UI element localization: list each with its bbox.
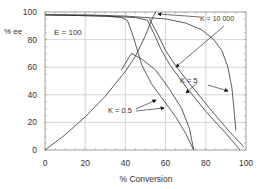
x-axis-label: % Conversion [120,174,173,184]
annotation-e100: E = 100 [54,28,82,37]
chart: 020406080100020406080100 % ee % Conversi… [0,0,263,189]
arrow-k05-b [136,108,164,111]
arrow-k10000-b [176,26,224,67]
x-tick-label: 0 [43,158,48,168]
x-tick-label: 80 [201,158,211,168]
arrow-k10000-a [158,14,200,17]
annotation-k10000: K = 10 000 [200,15,234,22]
arrow-k05-a [136,100,156,109]
y-tick-label: 80 [28,35,38,45]
x-tick-label: 100 [239,158,253,168]
y-tick-label: 60 [28,62,38,72]
y-axis-label: % ee [4,27,23,36]
chart-svg: 020406080100020406080100 % ee % Conversi… [0,0,263,189]
y-tick-label: 40 [28,90,38,100]
y-tick-label: 100 [23,7,37,17]
arrow-k5-b [208,85,228,91]
x-tick-label: 60 [161,158,171,168]
x-tick-label: 40 [121,158,131,168]
annotation-arrows [136,14,228,111]
annotation-k5: K = 5 [180,76,198,85]
y-tick-label: 20 [28,117,38,127]
curve-series-5 [121,53,193,150]
y-tick-label: 0 [32,145,37,155]
x-tick-label: 20 [80,158,90,168]
labels: % ee % Conversion E = 100 K = 10 000 K =… [4,15,234,184]
annotation-k05: K = 0.5 [108,106,132,115]
